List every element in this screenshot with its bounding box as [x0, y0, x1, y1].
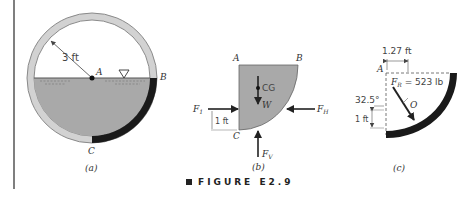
fr-label: FR = 523 lb — [390, 77, 444, 88]
panel-c-resultant: A 1.27 ft FR = 523 lb O 32.5° 1 ft (c) — [355, 46, 457, 173]
point-c-label: C — [88, 146, 95, 156]
b-point-c-label: C — [233, 131, 240, 141]
caption-square-icon — [186, 179, 192, 185]
dim-1-27ft-label: 1.27 ft — [382, 46, 412, 56]
b-point-b-label: B — [295, 53, 303, 63]
cg-dot — [256, 86, 260, 90]
figure-caption: FIGURE E2.9 — [198, 177, 294, 187]
dim-1ft-label: 1 ft — [215, 117, 228, 126]
panel-b-label: (b) — [252, 162, 265, 172]
cg-label: CG — [262, 83, 275, 93]
point-a-dot — [90, 76, 95, 81]
point-b-label: B — [159, 72, 167, 82]
c-point-a-label: A — [376, 64, 384, 74]
fh-label: FH — [316, 104, 329, 115]
point-o-label: O — [410, 100, 418, 110]
b-point-a-label: A — [232, 53, 240, 63]
angle-label: 32.5° — [355, 95, 380, 105]
panel-a-label: (a) — [85, 163, 98, 173]
point-a-label: A — [95, 67, 103, 77]
f1-label: F1 — [192, 104, 203, 115]
weight-label: W — [262, 100, 272, 110]
fluid-body-abc — [239, 65, 298, 130]
panel-b-free-body: A B C CG W F1 1 ft FH FV (b) — [192, 53, 329, 172]
o-leader-line — [403, 98, 408, 103]
fv-label: FV — [261, 149, 273, 160]
figure-e2-9: 3 ft A B C (a) A B C CG W F1 1 ft FH FV … — [0, 0, 473, 198]
panel-a-tank: 3 ft A B C (a) — [27, 13, 167, 173]
dim-1ft-label-c: 1 ft — [355, 115, 368, 124]
radius-label: 3 ft — [62, 52, 79, 63]
panel-c-label: (c) — [393, 163, 406, 173]
